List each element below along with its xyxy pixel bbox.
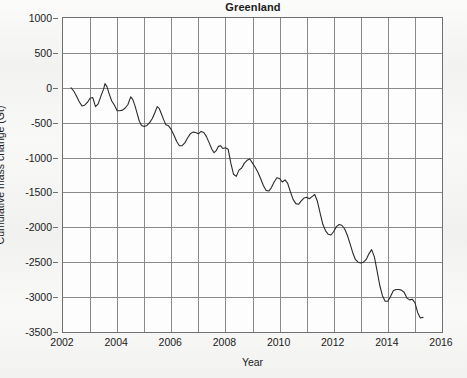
- y-tick-mark: [53, 123, 58, 124]
- x-tick-label: 2004: [104, 336, 127, 348]
- y-tick-mark: [53, 192, 58, 193]
- y-tick-label: -2000: [0, 221, 58, 233]
- y-tick-label: 500: [0, 47, 58, 59]
- x-tick-label: 2006: [159, 336, 182, 348]
- plot-area: [62, 17, 443, 333]
- y-tick-label: -2500: [0, 256, 58, 268]
- x-tick-label: 2010: [267, 336, 290, 348]
- x-axis-label: Year: [62, 356, 443, 368]
- x-tick-label: 2012: [321, 336, 344, 348]
- y-tick-label: -1000: [0, 152, 58, 164]
- y-tick-mark: [53, 158, 58, 159]
- y-tick-label: -3500: [0, 326, 58, 338]
- y-tick-mark: [53, 262, 58, 263]
- y-tick-mark: [53, 18, 58, 19]
- y-tick-mark: [53, 53, 58, 54]
- y-tick-label: -500: [0, 117, 58, 129]
- y-tick-label: 1000: [0, 12, 58, 24]
- x-axis-ticks: 20022004200620082010201220142016: [62, 336, 443, 352]
- y-axis-ticks: 10005000-500-1000-1500-2000-2500-3000-35…: [0, 17, 58, 333]
- data-series-line-0: [71, 84, 423, 318]
- x-tick-label: 2008: [213, 336, 236, 348]
- x-tick-label: 2002: [50, 336, 73, 348]
- x-tick-label: 2016: [429, 336, 452, 348]
- x-tick-label: 2014: [375, 336, 398, 348]
- y-tick-mark: [53, 88, 58, 89]
- y-tick-mark: [53, 297, 58, 298]
- y-tick-label: -3000: [0, 291, 58, 303]
- y-tick-mark: [53, 332, 58, 333]
- chart-title: Greenland: [62, 1, 444, 13]
- chart-figure: Greenland 10005000-500-1000-1500-2000-25…: [0, 0, 467, 378]
- y-tick-label: -1500: [0, 186, 58, 198]
- y-tick-label: 0: [0, 82, 58, 94]
- data-series-layer: [63, 18, 442, 332]
- y-axis-label: Cumulative mass change (Gt): [0, 106, 6, 245]
- y-tick-mark: [53, 227, 58, 228]
